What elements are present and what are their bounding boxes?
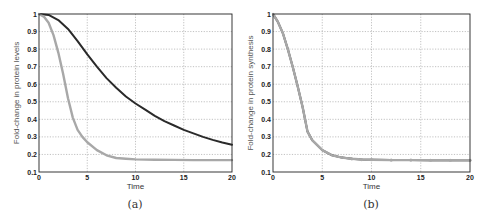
y-tick-label: 0.6 xyxy=(261,81,271,88)
x-axis-label: Time xyxy=(127,182,145,191)
x-tick-label: 5 xyxy=(85,174,89,181)
x-tick-label: 10 xyxy=(368,174,376,181)
series-marker xyxy=(350,157,353,160)
y-tick-label: 0.8 xyxy=(261,46,271,53)
x-tick-label: 15 xyxy=(180,174,188,181)
chart-panel-a: 051015200.10.20.30.40.50.60.70.80.91Time… xyxy=(12,11,236,212)
x-tick-label: 5 xyxy=(320,174,324,181)
y-tick-label: 0.9 xyxy=(261,28,271,35)
x-tick-label: 15 xyxy=(417,174,425,181)
series-marker xyxy=(360,158,363,161)
series-marker xyxy=(370,158,373,161)
chart-panel-b: 051015200.10.20.30.40.50.60.70.80.91Time… xyxy=(246,11,474,212)
y-tick-label: 0.5 xyxy=(27,98,37,105)
y-tick-label: 0.4 xyxy=(261,116,271,123)
panel-caption: (b) xyxy=(363,198,379,211)
y-tick-label: 1 xyxy=(33,11,37,18)
x-axis-label: Time xyxy=(363,182,381,191)
y-tick-label: 0.3 xyxy=(27,133,37,140)
y-tick-label: 0.5 xyxy=(261,98,271,105)
y-tick-label: 0.2 xyxy=(261,151,271,158)
y-tick-label: 0.6 xyxy=(27,81,37,88)
y-tick-label: 0.1 xyxy=(27,169,37,176)
x-tick-label: 0 xyxy=(271,174,275,181)
y-tick-label: 0.2 xyxy=(27,151,37,158)
y-tick-label: 1 xyxy=(267,11,271,18)
x-tick-label: 10 xyxy=(132,174,140,181)
y-tick-label: 0.4 xyxy=(27,116,37,123)
y-tick-label: 0.1 xyxy=(261,169,271,176)
y-axis-label: Fold-change in protein levels xyxy=(12,42,21,144)
y-tick-label: 0.8 xyxy=(27,46,37,53)
y-axis-label: Fold-change in protein synthesis xyxy=(246,35,255,150)
x-tick-label: 20 xyxy=(466,174,474,181)
series-marker xyxy=(390,158,393,161)
series-marker xyxy=(409,158,412,161)
y-tick-label: 0.7 xyxy=(27,63,37,70)
series-marker xyxy=(449,159,452,162)
y-tick-label: 0.9 xyxy=(27,28,37,35)
series-marker xyxy=(429,159,432,162)
y-tick-label: 0.7 xyxy=(261,63,271,70)
figure: 051015200.10.20.30.40.50.60.70.80.91Time… xyxy=(0,0,487,218)
panel-caption: (a) xyxy=(127,198,142,211)
x-tick-label: 0 xyxy=(37,174,41,181)
y-tick-label: 0.3 xyxy=(261,133,271,140)
x-tick-label: 20 xyxy=(228,174,236,181)
